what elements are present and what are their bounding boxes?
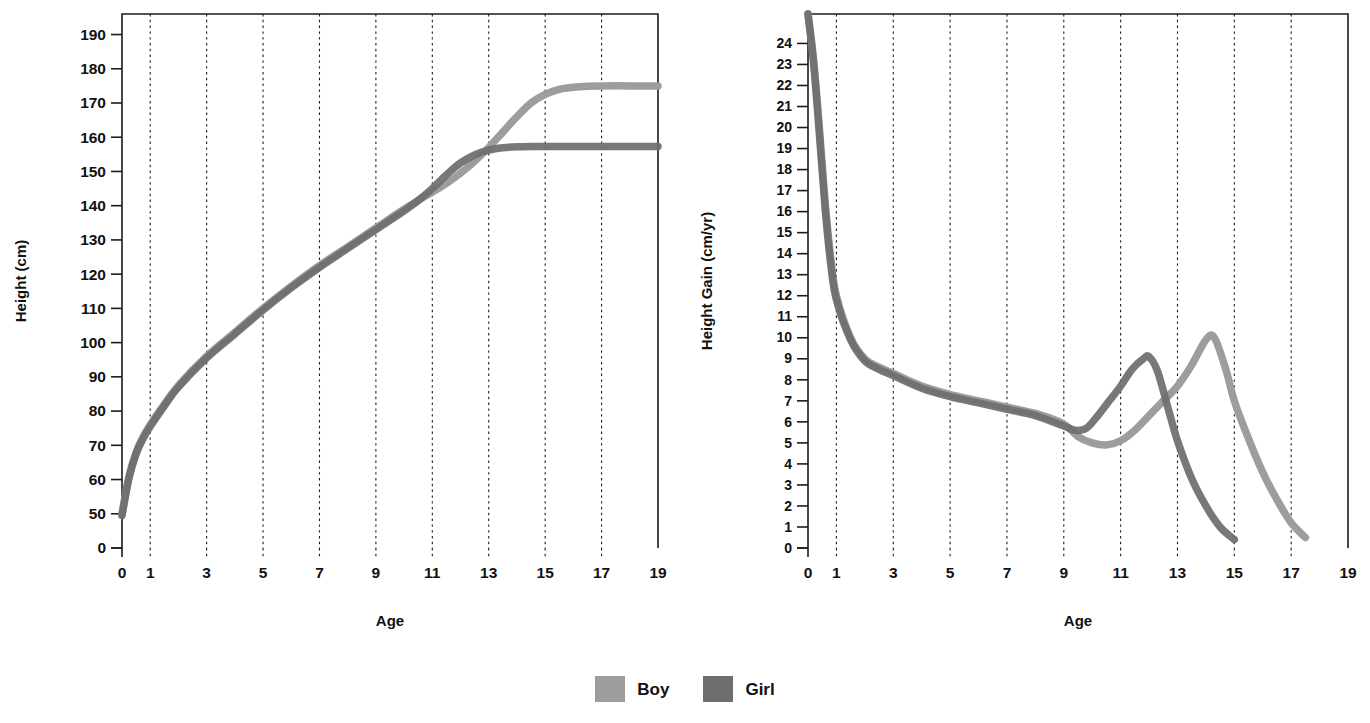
- tick-label-y: 90: [89, 368, 106, 385]
- series-line-girl: [808, 14, 1234, 540]
- tick-label-x: 15: [537, 564, 555, 581]
- tick-label-x: 15: [1226, 564, 1244, 581]
- tick-label-x: 0: [118, 564, 127, 581]
- tick-label-y: 20: [776, 119, 792, 135]
- x-axis-title: Age: [376, 612, 404, 629]
- legend-swatch-boy: [595, 676, 625, 702]
- tick-label-x: 9: [372, 564, 381, 581]
- tick-label-y: 11: [777, 308, 792, 324]
- tick-label-x: 13: [1169, 564, 1187, 581]
- tick-label-x: 17: [593, 564, 610, 581]
- x-axis-title: Age: [1064, 612, 1092, 629]
- tick-label-y: 50: [89, 505, 106, 522]
- tick-label-y: 60: [89, 471, 106, 488]
- tick-label-x: 7: [1003, 564, 1012, 581]
- tick-label-y: 120: [80, 266, 106, 283]
- tick-label-x: 19: [649, 564, 667, 581]
- tick-label-x: 1: [146, 564, 155, 581]
- tick-label-y: 18: [776, 161, 792, 177]
- legend-item-girl: Girl: [703, 676, 774, 702]
- tick-label-y: 22: [776, 77, 792, 93]
- tick-label-y: 5: [784, 435, 792, 451]
- tick-label-y: 170: [80, 94, 106, 111]
- tick-label-x: 11: [1112, 564, 1129, 581]
- tick-label-y: 19: [776, 140, 792, 156]
- tick-label-x: 5: [946, 564, 955, 581]
- tick-label-y: 190: [80, 26, 106, 43]
- tick-label-y: 180: [80, 60, 106, 77]
- legend-item-boy: Boy: [595, 676, 669, 702]
- tick-label-y: 15: [776, 224, 792, 240]
- tick-label-y: 4: [784, 456, 792, 472]
- legend-label-girl: Girl: [745, 681, 774, 698]
- plot-frame: [122, 14, 658, 548]
- tick-label-x: 19: [1339, 564, 1357, 581]
- tick-label-y: 8: [784, 372, 792, 388]
- tick-label-y: 13: [776, 266, 792, 282]
- tick-label-x: 5: [259, 564, 268, 581]
- tick-label-y: 7: [784, 393, 792, 409]
- tick-label-y: 9: [784, 350, 792, 366]
- tick-label-y: 3: [784, 477, 792, 493]
- tick-label-y: 1: [784, 519, 792, 535]
- tick-label-y: 70: [89, 437, 106, 454]
- tick-label-y: 0: [784, 540, 792, 556]
- tick-label-x: 1: [832, 564, 841, 581]
- plot-frame: [808, 14, 1348, 548]
- tick-label-y: 17: [776, 182, 792, 198]
- tick-label-y: 14: [776, 245, 792, 261]
- tick-label-y: 0: [97, 539, 106, 556]
- tick-label-y: 110: [81, 300, 106, 317]
- tick-label-x: 3: [889, 564, 898, 581]
- series-line-boy: [808, 14, 1305, 537]
- tick-label-y: 80: [89, 402, 106, 419]
- tick-label-y: 160: [80, 129, 106, 146]
- axis-origin-bracket: [797, 548, 808, 557]
- tick-label-y: 23: [776, 56, 792, 72]
- y-axis-title: Height (cm): [12, 240, 29, 323]
- tick-label-y: 12: [776, 287, 792, 303]
- tick-label-y: 2: [784, 498, 792, 514]
- legend-swatch-girl: [703, 676, 733, 702]
- tick-label-x: 11: [424, 564, 441, 581]
- chart-left-svg: 0506070809010011012013014015016017018019…: [0, 0, 680, 660]
- chart-right-svg: 0123456789101112131415161718192021222324…: [690, 0, 1370, 660]
- tick-label-x: 0: [804, 564, 813, 581]
- chart-legend: Boy Girl: [0, 655, 1370, 723]
- tick-label-y: 150: [80, 163, 106, 180]
- axis-origin-bracket: [111, 548, 122, 557]
- tick-label-y: 21: [776, 98, 792, 114]
- tick-label-y: 100: [80, 334, 106, 351]
- chart-height-velocity: 0123456789101112131415161718192021222324…: [690, 0, 1370, 660]
- tick-label-y: 16: [776, 203, 792, 219]
- tick-label-y: 130: [80, 231, 106, 248]
- chart-height-for-age: 0506070809010011012013014015016017018019…: [0, 0, 680, 660]
- figure-root: 0506070809010011012013014015016017018019…: [0, 0, 1370, 723]
- tick-label-x: 13: [480, 564, 498, 581]
- tick-label-y: 10: [776, 329, 792, 345]
- tick-label-x: 17: [1283, 564, 1300, 581]
- tick-label-y: 140: [80, 197, 106, 214]
- y-axis-title: Height Gain (cm/yr): [698, 212, 715, 350]
- series-line-girl: [122, 146, 658, 515]
- tick-label-y: 6: [784, 414, 792, 430]
- legend-label-boy: Boy: [637, 681, 669, 698]
- tick-label-x: 9: [1059, 564, 1068, 581]
- tick-label-x: 3: [202, 564, 211, 581]
- tick-label-y: 24: [776, 35, 792, 51]
- tick-label-x: 7: [315, 564, 324, 581]
